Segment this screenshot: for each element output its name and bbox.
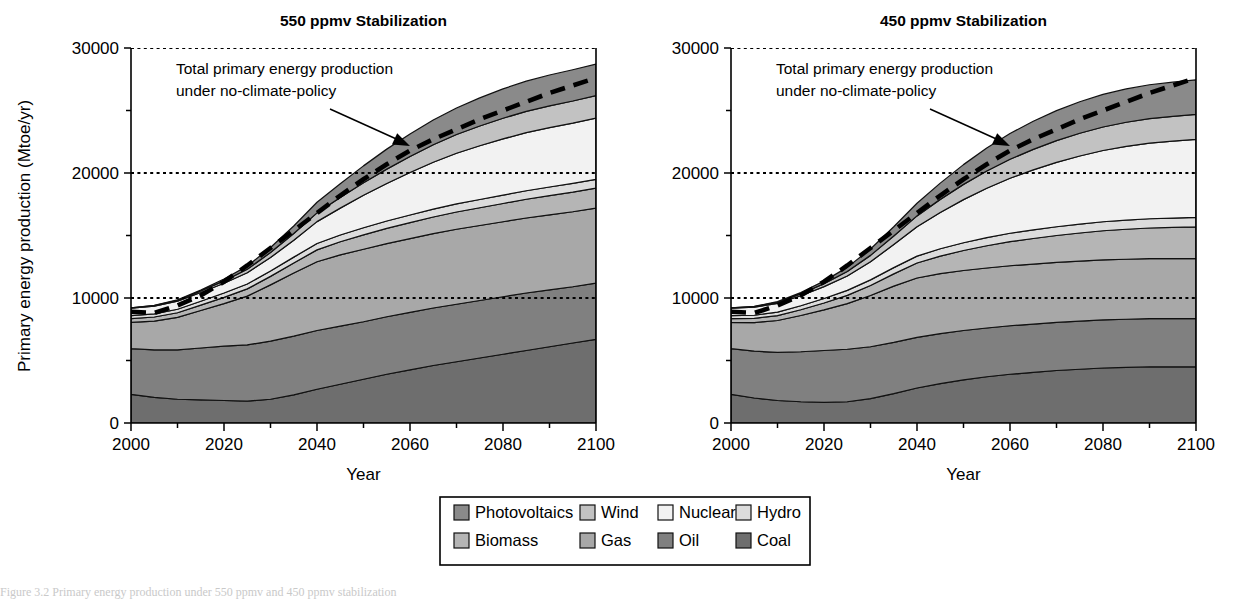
legend-swatch-coal: [736, 533, 751, 548]
annotation-line-1: Total primary energy production: [776, 60, 993, 77]
x-tick-label: 2020: [205, 435, 243, 454]
plot-area: [731, 48, 1196, 423]
figure-root: Primary energy production (Mtoe/yr) 550 …: [0, 0, 1240, 599]
x-axis-title: Year: [346, 465, 381, 484]
legend-swatch-nuclear: [658, 505, 673, 520]
y-axis-title: Primary energy production (Mtoe/yr): [15, 100, 34, 372]
legend-item-coal[interactable]: Coal: [736, 531, 791, 549]
y-tick-label: 10000: [72, 289, 119, 308]
y-tick-label: 20000: [72, 164, 119, 183]
x-tick-label: 2000: [712, 435, 750, 454]
legend-label-coal: Coal: [757, 531, 791, 549]
legend-label-biomass: Biomass: [475, 531, 538, 549]
x-tick-label: 2100: [577, 435, 615, 454]
panel-title: 550 ppmv Stabilization: [280, 12, 447, 29]
legend-item-biomass[interactable]: Biomass: [454, 531, 538, 549]
legend-label-wind: Wind: [601, 503, 639, 521]
legend-swatch-biomass: [454, 533, 469, 548]
legend-swatch-gas: [580, 533, 595, 548]
x-tick-label: 2080: [484, 435, 522, 454]
panel-450-ppmv: 450 ppmv Stabilization010000200003000020…: [672, 12, 1215, 484]
x-tick-label: 2000: [112, 435, 150, 454]
legend-label-gas: Gas: [601, 531, 631, 549]
y-tick-label: 10000: [672, 289, 719, 308]
energy-production-figure: Primary energy production (Mtoe/yr) 550 …: [0, 0, 1240, 599]
x-tick-label: 2020: [805, 435, 843, 454]
annotation-line-2: under no-climate-policy: [776, 82, 936, 99]
legend-label-hydro: Hydro: [757, 503, 801, 521]
legend-swatch-wind: [580, 505, 595, 520]
panel-title: 450 ppmv Stabilization: [880, 12, 1047, 29]
legend-item-wind[interactable]: Wind: [580, 503, 639, 521]
x-tick-label: 2060: [991, 435, 1029, 454]
x-axis-title: Year: [946, 465, 981, 484]
legend-label-nuclear: Nuclear: [679, 503, 736, 521]
panel-550-ppmv: 550 ppmv Stabilization010000200003000020…: [72, 12, 615, 484]
legend-label-photovoltaics: Photovoltaics: [475, 503, 573, 521]
x-tick-label: 2080: [1084, 435, 1122, 454]
x-tick-label: 2060: [391, 435, 429, 454]
y-tick-label: 0: [110, 414, 119, 433]
y-tick-label: 30000: [672, 39, 719, 58]
legend-item-nuclear[interactable]: Nuclear: [658, 503, 736, 521]
legend-swatch-photovoltaics: [454, 505, 469, 520]
annotation-leader-line: [930, 109, 1003, 142]
x-tick-label: 2040: [298, 435, 336, 454]
legend-label-oil: Oil: [679, 531, 699, 549]
legend-swatch-oil: [658, 533, 673, 548]
annotation-line-1: Total primary energy production: [176, 60, 393, 77]
legend: PhotovoltaicsWindNuclearHydroBiomassGasO…: [440, 497, 810, 565]
legend-item-oil[interactable]: Oil: [658, 531, 699, 549]
y-tick-label: 30000: [72, 39, 119, 58]
legend-item-gas[interactable]: Gas: [580, 531, 631, 549]
legend-item-hydro[interactable]: Hydro: [736, 503, 801, 521]
x-tick-label: 2100: [1177, 435, 1215, 454]
annotation-leader-line: [330, 109, 403, 142]
y-tick-label: 0: [710, 414, 719, 433]
figure-caption-sliver: Figure 3.2 Primary energy production und…: [0, 585, 1240, 599]
legend-swatch-hydro: [736, 505, 751, 520]
y-tick-label: 20000: [672, 164, 719, 183]
plot-area: [131, 48, 596, 423]
x-tick-label: 2040: [898, 435, 936, 454]
annotation-line-2: under no-climate-policy: [176, 82, 336, 99]
